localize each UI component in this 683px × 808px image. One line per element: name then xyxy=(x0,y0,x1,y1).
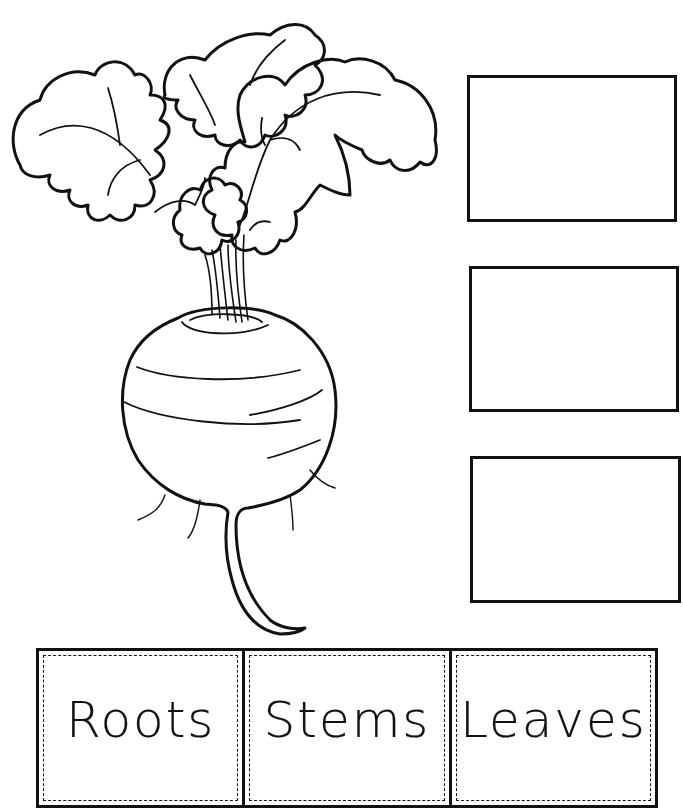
root-bulb xyxy=(122,308,336,634)
cut-out-label-strip: Roots Stems Leaves xyxy=(36,648,658,808)
label-text: Stems xyxy=(245,691,448,749)
middle-leaf xyxy=(164,24,324,146)
left-leaf xyxy=(13,62,169,220)
answer-box-middle[interactable] xyxy=(469,266,679,412)
label-card-stems[interactable]: Stems xyxy=(245,651,451,805)
label-text: Leaves xyxy=(452,691,655,749)
answer-box-bottom[interactable] xyxy=(470,456,681,603)
label-card-leaves[interactable]: Leaves xyxy=(452,651,655,805)
beet-plant-illustration xyxy=(0,0,460,640)
label-text: Roots xyxy=(39,691,242,749)
label-card-roots[interactable]: Roots xyxy=(39,651,245,805)
answer-box-top[interactable] xyxy=(467,75,677,222)
